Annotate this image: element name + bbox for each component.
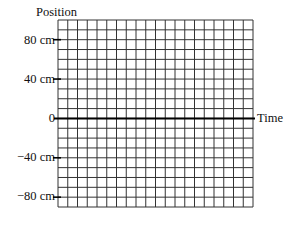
graph-grid <box>0 0 295 237</box>
